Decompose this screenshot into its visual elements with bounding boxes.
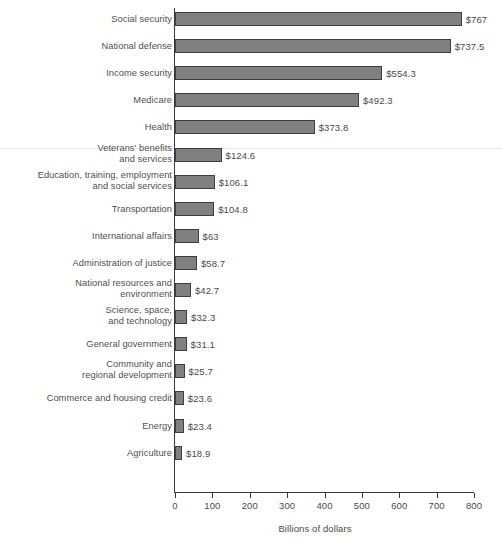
- bar: [175, 391, 184, 405]
- x-axis-tick: [287, 493, 288, 498]
- bar: [175, 66, 382, 80]
- bar-row: Education, training, employmentand socia…: [0, 175, 502, 190]
- bar: [175, 39, 451, 53]
- bar-category-label: Education, training, employmentand socia…: [0, 170, 172, 192]
- bar-category-label: General government: [0, 339, 172, 350]
- x-axis-tick: [325, 493, 326, 498]
- bar-value-label: $18.9: [186, 448, 210, 459]
- bar-row: Agriculture$18.9: [0, 446, 502, 461]
- bar-category-label: Veterans' benefitsand services: [0, 143, 172, 165]
- bar: [175, 93, 359, 107]
- x-axis-title: Billions of dollars: [0, 523, 502, 534]
- bar-category-label: Medicare: [0, 95, 172, 106]
- x-axis-tick: [437, 493, 438, 498]
- bar: [175, 202, 214, 216]
- bar-category-label: National defense: [0, 41, 172, 52]
- bar-row: Veterans' benefitsand services$124.6: [0, 148, 502, 163]
- bar: [175, 446, 182, 460]
- bar-row: Commerce and housing credit$23.6: [0, 391, 502, 406]
- bar-row: Energy$23.4: [0, 419, 502, 434]
- bar-row: National resources andenvironment$42.7: [0, 283, 502, 298]
- bar-row: Administration of justice$58.7: [0, 256, 502, 271]
- x-axis-tick: [362, 493, 363, 498]
- x-axis-tick-label: 100: [204, 500, 220, 511]
- x-axis-tick-label: 500: [354, 500, 370, 511]
- bar-category-label: Science, space,and technology: [0, 305, 172, 327]
- bar-row: Transportation$104.8: [0, 202, 502, 217]
- bar-value-label: $124.6: [226, 150, 256, 161]
- bar-row: Community andregional development$25.7: [0, 364, 502, 379]
- bar: [175, 148, 222, 162]
- bar-category-label: Commerce and housing credit: [0, 393, 172, 404]
- bar-row: Income security$554.3: [0, 66, 502, 81]
- bar-value-label: $63: [203, 231, 219, 242]
- bar-value-label: $373.8: [319, 122, 349, 133]
- x-axis-tick: [175, 493, 176, 498]
- bar: [175, 120, 315, 134]
- x-axis-tick-label: 300: [279, 500, 295, 511]
- bar: [175, 256, 197, 270]
- bar-category-label: National resources andenvironment: [0, 278, 172, 300]
- bar-chart: 0100200300400500600700800 Social securit…: [0, 0, 502, 548]
- bar-category-label: Transportation: [0, 204, 172, 215]
- bar: [175, 229, 199, 243]
- bar: [175, 337, 187, 351]
- bar: [175, 283, 191, 297]
- bar-row: Social security$767: [0, 12, 502, 27]
- bar-row: Health$373.8: [0, 120, 502, 135]
- bar: [175, 419, 184, 433]
- x-axis-title-text: Billions of dollars: [150, 523, 351, 534]
- bar-value-label: $737.5: [455, 41, 485, 52]
- bar-value-label: $58.7: [201, 258, 225, 269]
- bar-category-label: Health: [0, 122, 172, 133]
- bar-category-label: Community andregional development: [0, 359, 172, 381]
- x-axis-tick-label: 700: [429, 500, 445, 511]
- bar-category-label: Administration of justice: [0, 258, 172, 269]
- bar-value-label: $106.1: [219, 177, 249, 188]
- x-axis-tick-label: 400: [316, 500, 332, 511]
- bar-category-label: International affairs: [0, 231, 172, 242]
- bar-category-label: Income security: [0, 68, 172, 79]
- x-axis-tick: [474, 493, 475, 498]
- bar: [175, 12, 462, 26]
- x-axis-tick-label: 800: [466, 500, 482, 511]
- bar: [175, 364, 185, 378]
- bar-value-label: $25.7: [189, 366, 213, 377]
- bar: [175, 310, 187, 324]
- bar-value-label: $767: [466, 14, 488, 25]
- bar-row: Science, space,and technology$32.3: [0, 310, 502, 325]
- bar-value-label: $492.3: [363, 95, 393, 106]
- x-axis-tick-label: 200: [242, 500, 258, 511]
- bar: [175, 175, 215, 189]
- bar-row: National defense$737.5: [0, 39, 502, 54]
- x-axis-tick-label: 0: [172, 500, 177, 511]
- x-axis-tick-label: 600: [391, 500, 407, 511]
- bar-value-label: $104.8: [218, 204, 248, 215]
- bar-value-label: $42.7: [195, 285, 219, 296]
- bar-value-label: $32.3: [191, 312, 215, 323]
- plot-area: 0100200300400500600700800 Social securit…: [0, 0, 502, 548]
- bar-value-label: $23.6: [188, 393, 212, 404]
- x-axis-tick: [399, 493, 400, 498]
- x-axis-tick: [250, 493, 251, 498]
- x-axis-tick: [212, 493, 213, 498]
- bar-row: International affairs$63: [0, 229, 502, 244]
- bar-category-label: Social security: [0, 14, 172, 25]
- bar-category-label: Agriculture: [0, 448, 172, 459]
- bar-row: Medicare$492.3: [0, 93, 502, 108]
- bar-value-label: $23.4: [188, 421, 212, 432]
- bar-value-label: $554.3: [386, 68, 416, 79]
- bar-category-label: Energy: [0, 421, 172, 432]
- bar-row: General government$31.1: [0, 337, 502, 352]
- bar-value-label: $31.1: [191, 339, 215, 350]
